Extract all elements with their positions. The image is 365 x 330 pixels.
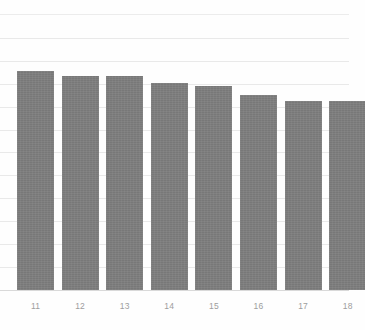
x-tick-label: 18 <box>329 301 365 311</box>
x-axis-line <box>0 290 349 291</box>
bar[interactable] <box>195 86 232 290</box>
x-tick-label: 13 <box>106 301 143 311</box>
bar[interactable] <box>240 95 277 290</box>
bar[interactable] <box>285 101 322 290</box>
x-tick-label: 12 <box>62 301 99 311</box>
bar[interactable] <box>329 101 365 290</box>
chart-plot-area <box>0 0 365 330</box>
bar[interactable] <box>106 76 143 290</box>
bar[interactable] <box>17 71 54 290</box>
x-tick-label: 11 <box>17 301 54 311</box>
bar[interactable] <box>151 83 188 290</box>
bar-chart: 1112131415161718 <box>0 0 365 330</box>
x-tick-label: 16 <box>240 301 277 311</box>
x-tick-label: 17 <box>285 301 322 311</box>
x-tick-label: 14 <box>151 301 188 311</box>
bar[interactable] <box>62 76 99 290</box>
x-tick-label: 15 <box>195 301 232 311</box>
